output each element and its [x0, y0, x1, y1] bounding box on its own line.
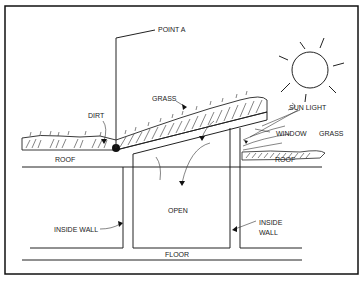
label-roof-left: ROOF [55, 156, 75, 163]
inside-wall-right-leader [235, 221, 256, 229]
sun-icon [279, 38, 344, 102]
airflow-curve-2 [182, 143, 210, 183]
label-grass-top: GRASS [152, 95, 177, 102]
label-inside-wall-right-2: WALL [259, 229, 278, 236]
diagram-canvas: POINT A GRASS DIRT SUN LIGHT WINDOW GRAS… [0, 0, 364, 281]
label-dirt: DIRT [88, 112, 105, 119]
inside-wall-left-leader [100, 224, 120, 229]
label-floor: FLOOR [165, 251, 189, 258]
airflow-curve-1 [156, 157, 161, 180]
label-grass-right: GRASS [319, 130, 344, 137]
window-arrow-head [244, 140, 248, 144]
label-sun-light: SUN LIGHT [289, 104, 327, 111]
sunlight-arrow [199, 136, 205, 141]
label-window: WINDOW [276, 130, 307, 137]
label-point-a: POINT A [158, 26, 186, 33]
label-open: OPEN [168, 207, 188, 214]
label-inside-wall-right-1: INSIDE [259, 219, 283, 226]
label-roof-right: ROOF [275, 156, 295, 163]
open-room-floor [133, 128, 230, 248]
airflow-arrow-1 [179, 181, 185, 186]
label-inside-wall-left: INSIDE WALL [54, 226, 98, 233]
